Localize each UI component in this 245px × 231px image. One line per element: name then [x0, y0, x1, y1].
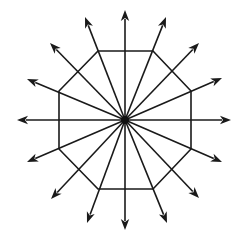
arrow-shaft-se: [125, 120, 193, 191]
arrow-shaft-ne: [125, 49, 193, 120]
center-hub-dot: [121, 116, 129, 124]
octagon-ray-diagram: [0, 0, 245, 231]
arrow-shaft-wnw: [35, 82, 125, 120]
arrow-shaft-ssw: [90, 120, 125, 215]
arrow-shaft-nw: [56, 49, 125, 120]
arrow-shaft-wsw: [35, 120, 125, 158]
arrow-shaft-nnw: [88, 25, 125, 120]
